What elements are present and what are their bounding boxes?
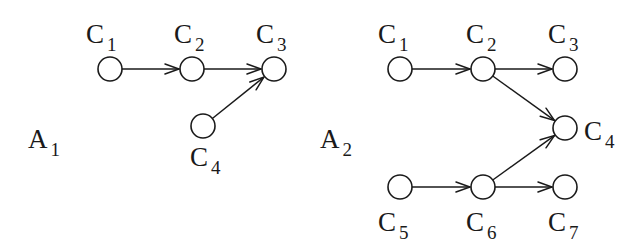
node-circle-icon <box>388 175 412 199</box>
node-label-c3: C3 <box>256 19 287 55</box>
node-c3: C3 <box>548 19 579 81</box>
node-circle-icon <box>553 116 577 140</box>
node-circle-icon <box>180 57 204 81</box>
node-c1: C1 <box>378 19 412 81</box>
node-circle-icon <box>262 57 286 81</box>
node-circle-icon <box>191 114 215 138</box>
node-label-c4: C4 <box>190 142 221 178</box>
node-c1: C1 <box>86 19 122 81</box>
edge-c2-c3 <box>204 64 261 74</box>
edge-c2-c3 <box>495 64 552 74</box>
graph-figure: A1C1C2C3C4A2C1C2C3C4C5C6C7 <box>0 0 636 252</box>
node-circle-icon <box>471 175 495 199</box>
graph-label-a2: A2 <box>320 124 352 160</box>
arrowhead-icon <box>540 108 554 120</box>
node-label-c1: C1 <box>378 19 409 55</box>
node-label-c4: C4 <box>584 116 615 152</box>
arrowhead-icon <box>540 136 554 148</box>
edge-c1-c2 <box>412 64 470 74</box>
edge-c2-c4 <box>493 76 555 120</box>
node-c4: C4 <box>190 114 221 178</box>
node-c2: C2 <box>466 19 497 81</box>
node-label-c1: C1 <box>86 19 117 55</box>
node-c2: C2 <box>174 19 205 81</box>
node-label-c3: C3 <box>548 19 579 55</box>
node-c6: C6 <box>466 175 497 243</box>
edge-c1-c2 <box>122 64 179 74</box>
node-label-c7: C7 <box>548 207 579 243</box>
node-c5: C5 <box>378 175 412 243</box>
node-c7: C7 <box>548 175 579 243</box>
node-label-c5: C5 <box>378 207 409 243</box>
edge-c5-c6 <box>412 182 470 192</box>
edge-c6-c4 <box>493 136 555 180</box>
graph-label-a1: A1 <box>28 124 60 160</box>
edge-c4-c3 <box>212 77 264 118</box>
node-label-c6: C6 <box>466 207 497 243</box>
edge-c6-c7 <box>495 182 552 192</box>
node-c4: C4 <box>553 116 615 152</box>
graph-a2: A2C1C2C3C4C5C6C7 <box>320 19 615 243</box>
node-circle-icon <box>553 57 577 81</box>
node-circle-icon <box>553 175 577 199</box>
node-c3: C3 <box>256 19 287 81</box>
node-label-c2: C2 <box>466 19 497 55</box>
graph-a1: A1C1C2C3C4 <box>28 19 287 178</box>
node-label-c2: C2 <box>174 19 205 55</box>
node-circle-icon <box>388 57 412 81</box>
node-circle-icon <box>471 57 495 81</box>
node-circle-icon <box>98 57 122 81</box>
